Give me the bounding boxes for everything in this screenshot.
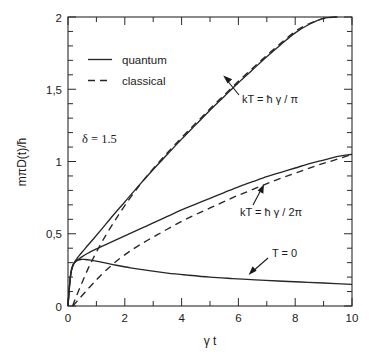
xtick-label-10: 10: [346, 312, 359, 324]
y-axis-title: mπD(t)/ħ: [15, 138, 29, 186]
ytick-label-1: 1: [56, 156, 62, 168]
curve-kt-2pi-classical: [73, 154, 352, 306]
xtick-label-2: 2: [122, 312, 128, 324]
data-curves: [68, 17, 352, 306]
curve-kt-pi-classical: [73, 17, 338, 306]
ytick-label-2: 2: [56, 12, 62, 24]
xtick-label-4: 4: [178, 312, 185, 324]
x-axis-title: γ t: [204, 334, 217, 348]
ytick-label-0: 0: [56, 301, 62, 313]
ytick-label-0-5: 0,5: [46, 228, 62, 240]
xtick-label-6: 6: [235, 312, 241, 324]
xtick-label-0: 0: [65, 312, 71, 324]
chart-svg: 0 2 4 6 8 10 0 0,5 1 1,5 2 γ t mπD(t)/ħ …: [0, 0, 369, 359]
ytick-label-1-5: 1,5: [46, 84, 62, 96]
annotation-t-zero-arrow: [249, 258, 268, 275]
curve-kt-2pi-quantum: [68, 154, 352, 306]
x-axis-major-ticks: [68, 17, 352, 306]
xtick-label-8: 8: [292, 312, 298, 324]
annotation-delta: δ = 1.5: [82, 132, 117, 146]
y-axis-minor-ticks: [68, 31, 352, 291]
curve-kt-pi-quantum: [68, 17, 336, 306]
annotation-t-zero: T = 0: [272, 247, 297, 259]
annotation-kt-2pi: kT = ħ γ / 2π: [240, 206, 303, 218]
legend: quantum classical: [88, 54, 167, 87]
plot-frame: [68, 17, 352, 306]
annotation-kt-2pi-arrow: [253, 184, 264, 205]
figure-container: 0 2 4 6 8 10 0 0,5 1 1,5 2 γ t mπD(t)/ħ …: [0, 0, 369, 359]
annotation-kt-pi: kT = ħ γ / π: [242, 93, 298, 105]
legend-label-classical: classical: [122, 75, 165, 87]
legend-label-quantum: quantum: [122, 54, 167, 66]
y-axis-major-ticks: [68, 17, 352, 306]
